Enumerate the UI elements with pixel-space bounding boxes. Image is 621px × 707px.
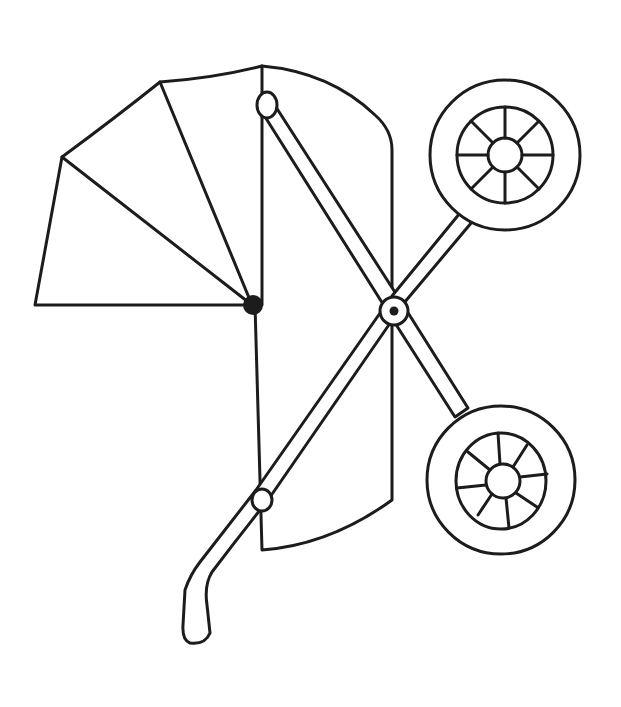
handle-joint-icon <box>252 489 272 511</box>
hood-hinge-icon <box>257 92 277 118</box>
pivot-joint <box>380 297 408 325</box>
bottom-wheel <box>427 406 575 554</box>
hood-pivot-icon <box>243 295 263 315</box>
front-frame-bar <box>183 213 472 643</box>
top-wheel <box>430 80 580 230</box>
stroller-illustration <box>0 0 621 707</box>
canopy-hood <box>35 66 262 305</box>
